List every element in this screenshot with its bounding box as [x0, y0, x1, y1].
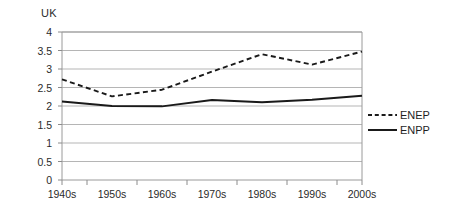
x-axis-tick-label: 1950s	[87, 189, 137, 200]
chart-container: UK 00.511.522.533.54 1940s1950s1960s1970…	[0, 0, 454, 216]
chart-plot-area	[0, 0, 454, 216]
y-axis-tick-label: 0	[26, 175, 52, 185]
y-axis-tick-label: 4	[26, 27, 52, 37]
x-axis-tick-label: 1970s	[187, 189, 237, 200]
legend-swatches	[368, 115, 397, 130]
y-axis-tick-label: 3	[26, 64, 52, 74]
x-axis-tick-label: 1960s	[137, 189, 187, 200]
legend-label-enpp: ENPP	[400, 124, 430, 136]
y-axis-tick-label: 3.5	[26, 46, 52, 56]
series-line-enep	[62, 52, 362, 97]
gridlines	[62, 32, 362, 162]
y-axis-tick-label: 1.5	[26, 120, 52, 130]
series-lines	[62, 52, 362, 107]
x-axis-ticks	[62, 180, 362, 185]
x-axis-tick-label: 1980s	[237, 189, 287, 200]
y-axis-ticks	[58, 32, 62, 180]
x-axis-tick-label: 1990s	[287, 189, 337, 200]
y-axis-tick-label: 2	[26, 101, 52, 111]
y-axis-tick-label: 0.5	[26, 157, 52, 167]
y-axis-tick-label: 2.5	[26, 83, 52, 93]
y-axis-tick-label: 1	[26, 138, 52, 148]
series-line-enpp	[62, 96, 362, 107]
legend-label-enep: ENEP	[400, 109, 430, 121]
x-axis-tick-label: 2000s	[337, 189, 387, 200]
x-axis-tick-label: 1940s	[37, 189, 87, 200]
